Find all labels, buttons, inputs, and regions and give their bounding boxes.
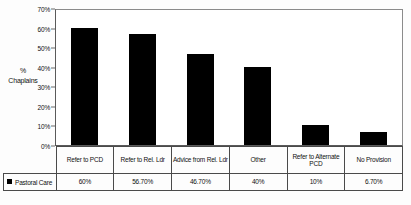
bar-refer-to-alternate-pcd <box>302 125 329 145</box>
bar-series-pastoral-care <box>56 10 402 145</box>
bar-slot <box>114 10 172 145</box>
table-cell-value: 60% <box>56 174 114 191</box>
table-cell-category: Refer to Alternate PCD <box>287 147 345 174</box>
bar-slot <box>287 10 345 145</box>
bar-refer-to-rel-ldr <box>129 34 156 145</box>
y-axis-ticks: 70%60%50%40%30%20%10%0% <box>27 9 55 146</box>
table-cell-value: 46.70% <box>172 174 230 191</box>
y-axis-tick-label: 60% <box>38 25 50 32</box>
y-axis-tick-label: 40% <box>38 64 50 71</box>
bar-slot <box>56 10 114 145</box>
bar-slot <box>229 10 287 145</box>
legend-swatch-icon <box>7 179 12 184</box>
y-axis-tick-label: 50% <box>38 45 50 52</box>
plot-area <box>55 9 403 146</box>
table-cell-value: 10% <box>287 174 345 191</box>
legend-entry: Pastoral Care <box>4 174 57 191</box>
table-cell-category: Refer to Rel. Ldr <box>114 147 172 174</box>
y-axis-tick-label: 30% <box>38 84 50 91</box>
table-cell-category: Advice from Rel. Ldr <box>172 147 230 174</box>
bar-chart: % Chaplains 70%60%50%40%30%20%10%0% Refe… <box>0 0 411 205</box>
y-axis-tick-label: 20% <box>38 103 50 110</box>
bar-slot <box>171 10 229 145</box>
table-row-values: Pastoral Care 60%56.70%46.70%40%10%6.70% <box>4 174 403 191</box>
table-cell-value: 40% <box>229 174 287 191</box>
data-table: Refer to PCDRefer to Rel. LdrAdvice from… <box>3 146 403 191</box>
table-cell-category: Refer to PCD <box>56 147 114 174</box>
bar-refer-to-pcd <box>71 28 98 145</box>
y-axis-tick-label: 70% <box>38 6 50 13</box>
y-axis-tick-label: 10% <box>38 123 50 130</box>
table-cell-category: No Provision <box>345 147 403 174</box>
table-corner-cell <box>4 147 57 174</box>
bar-slot <box>344 10 402 145</box>
table-cell-category: Other <box>229 147 287 174</box>
legend-label: Pastoral Care <box>15 179 52 187</box>
table-cell-value: 56.70% <box>114 174 172 191</box>
bar-no-provision <box>360 132 387 145</box>
table-row-categories: Refer to PCDRefer to Rel. LdrAdvice from… <box>4 147 403 174</box>
bar-other <box>244 67 271 145</box>
bar-advice-from-rel-ldr <box>187 54 214 145</box>
table-cell-value: 6.70% <box>345 174 403 191</box>
